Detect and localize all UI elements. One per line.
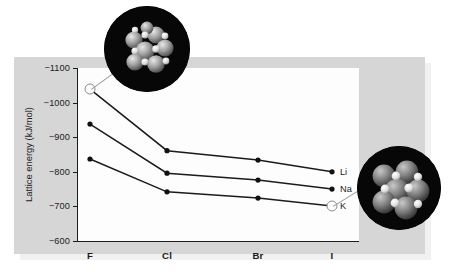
y-tick — [73, 241, 78, 242]
data-point — [87, 156, 92, 161]
data-point — [329, 169, 334, 174]
ki-crystal-callout — [357, 146, 441, 230]
data-point — [164, 189, 169, 194]
series-label-li: Li — [340, 167, 347, 177]
x-tick-label: Cl — [162, 250, 172, 261]
x-tick-i: I — [331, 241, 334, 261]
data-point — [164, 171, 169, 176]
highlight-marker-ki — [327, 201, 338, 212]
x-tick-label: I — [331, 250, 334, 261]
series-label-k: K — [340, 201, 346, 211]
x-tick-label: Br — [252, 250, 263, 261]
data-point — [164, 148, 169, 153]
series-line-li — [90, 89, 332, 172]
highlight-marker-lif — [85, 84, 96, 95]
series-lines — [78, 68, 359, 241]
data-point — [329, 187, 334, 192]
y-tick-label: −700 — [49, 201, 70, 211]
y-tick-label: −1000 — [44, 98, 70, 108]
series-line-na — [90, 124, 332, 189]
y-tick-label: −600 — [49, 236, 70, 246]
y-axis-title: Lattice energy (kJ/mol) — [20, 68, 36, 241]
lif-crystal-callout — [104, 6, 190, 92]
x-tick-cl: Cl — [162, 241, 172, 261]
x-tick-label: F — [87, 250, 93, 261]
data-point — [87, 121, 92, 126]
y-axis-title-text: Lattice energy (kJ/mol) — [23, 107, 34, 202]
series-label-na: Na — [340, 184, 352, 194]
data-point — [255, 157, 260, 162]
y-tick-label: −800 — [49, 167, 70, 177]
data-point — [255, 196, 260, 201]
ki-crystal-icon — [357, 146, 441, 230]
y-tick-label: −1100 — [44, 63, 70, 73]
lif-crystal-icon — [104, 6, 190, 92]
x-tick-br: Br — [252, 241, 263, 261]
y-tick-label: −900 — [49, 132, 70, 142]
data-point — [255, 178, 260, 183]
plot-area: −1100 −1000 −900 −800 −700 −600 F Cl Br … — [77, 68, 359, 242]
lattice-energy-figure: Lattice energy (kJ/mol) −1100 −1000 −900… — [0, 0, 462, 277]
x-tick-f: F — [87, 241, 93, 261]
